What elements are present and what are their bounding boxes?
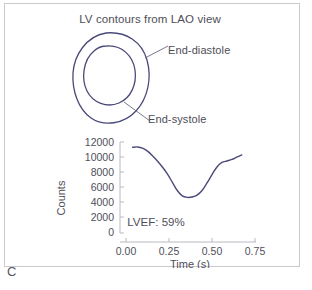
panel-letter: C	[7, 264, 17, 279]
y-axis-title: Counts	[55, 180, 67, 215]
y-tick-label-10000: 10000	[85, 151, 114, 163]
y-tick-label-6000: 6000	[91, 181, 115, 193]
x-tick-label-0.50: 0.50	[202, 245, 223, 257]
time-activity-curve-chart: Counts 12000 10000 8000 6000 4000 2000 0…	[54, 128, 269, 268]
y-tick-label-8000: 8000	[91, 166, 115, 178]
x-tick-label-0.25: 0.25	[159, 245, 180, 257]
end-systole-label: End-systole	[148, 113, 207, 125]
figure-title: LV contours from LAO view	[0, 13, 300, 25]
figure-panel: LV contours from LAO view End-diastole E…	[0, 0, 312, 290]
y-tick-label-4000: 4000	[91, 196, 115, 208]
lvef-annotation: LVEF: 59%	[127, 216, 184, 228]
y-tick-label-0: 0	[108, 226, 114, 238]
end-systole-contour	[84, 46, 136, 105]
y-tick-label-2000: 2000	[91, 211, 115, 223]
x-tick-label-0.00: 0.00	[116, 245, 137, 257]
y-tick-label-12000: 12000	[85, 136, 114, 148]
end-diastole-leader-line	[145, 46, 168, 58]
end-diastole-label: End-diastole	[168, 44, 230, 56]
x-axis-title: Time (s)	[170, 258, 210, 268]
x-tick-label-0.75: 0.75	[245, 245, 266, 257]
time-activity-curve-line	[133, 147, 242, 198]
